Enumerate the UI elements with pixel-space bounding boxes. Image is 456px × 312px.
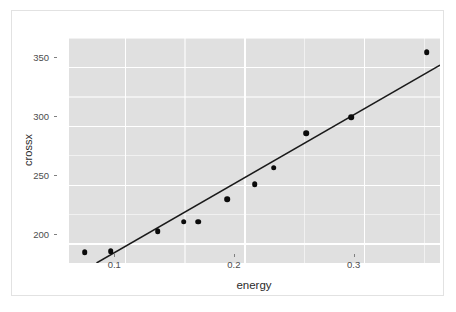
data-point (195, 219, 201, 225)
plot-panel (69, 38, 440, 263)
x-axis-label: energy (236, 279, 271, 291)
data-point (82, 250, 88, 256)
data-point (271, 165, 277, 171)
data-point (252, 181, 258, 187)
data-point (108, 248, 114, 254)
x-tick-mark (114, 254, 115, 257)
x-tick-label: 0.3 (347, 259, 360, 270)
x-tick-label: 0.2 (227, 259, 240, 270)
y-tick-label: 350 (33, 52, 49, 63)
y-tick-mark (54, 57, 57, 58)
y-tick-mark (54, 234, 57, 235)
data-point (349, 114, 355, 120)
chart-root: crossx energy 2002503003500.10.20.3 (0, 0, 456, 312)
data-point (303, 131, 309, 137)
y-tick-label: 300 (33, 111, 49, 122)
data-point (181, 219, 187, 225)
y-tick-mark (54, 116, 57, 117)
y-tick-label: 250 (33, 170, 49, 181)
x-tick-mark (354, 254, 355, 257)
y-axis-label: crossx (22, 134, 34, 166)
y-tick-mark (54, 175, 57, 176)
x-tick-mark (234, 254, 235, 257)
y-tick-label: 200 (33, 229, 49, 240)
x-tick-label: 0.1 (108, 259, 121, 270)
data-point (224, 197, 230, 203)
data-point (155, 228, 161, 234)
regression-line (69, 38, 440, 263)
data-point (424, 49, 430, 55)
figure-frame: crossx energy 2002503003500.10.20.3 (11, 10, 444, 296)
